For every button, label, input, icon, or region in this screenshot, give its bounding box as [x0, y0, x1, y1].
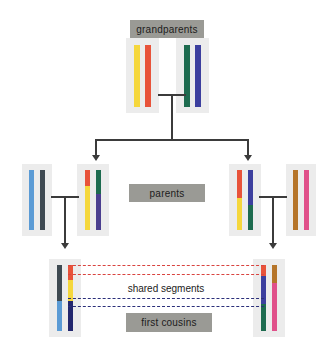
first-cousins-label-chip: first cousins: [126, 313, 212, 332]
parent-spouse-right-box: [286, 164, 316, 236]
segment: [272, 283, 277, 331]
chromosome: [40, 170, 45, 230]
parent-child-left-box: [77, 164, 109, 236]
chromosome: [96, 170, 101, 230]
parent-child-right-chromosomes: [229, 164, 261, 236]
shared-segment-link-red-bottom: [68, 274, 264, 275]
segment: [293, 170, 298, 230]
parent-spouse-right-chromosomes: [286, 164, 316, 236]
grandparent-1-box: [126, 38, 159, 113]
segment: [272, 265, 277, 283]
arrow-to-parent-child-left: [92, 155, 100, 161]
chromosome: [134, 45, 140, 107]
chromosome: [184, 45, 190, 107]
segment: [237, 198, 242, 230]
arrow-to-parent-child-right: [244, 155, 252, 161]
segment: [261, 276, 266, 304]
segment: [85, 170, 90, 186]
chromosome: [304, 170, 309, 230]
chromosome: [57, 265, 62, 331]
segment: [29, 170, 34, 230]
sibling-bus-line: [95, 139, 249, 141]
shared-segment-link-blue-bottom: [68, 306, 264, 307]
parent-child-left-chromosomes: [77, 164, 109, 236]
chromosome: [85, 170, 90, 230]
chromosome: [272, 265, 277, 331]
parent-child-right-box: [229, 164, 261, 236]
grandparents-label-text: grandparents: [136, 24, 197, 35]
chromosome: [248, 170, 253, 230]
segment: [68, 265, 73, 280]
shared-segments-label-text: shared segments: [128, 283, 205, 294]
sibling-branch-right: [247, 139, 249, 156]
shared-segment-link-blue-top: [68, 298, 264, 299]
parents-label-chip: parents: [129, 184, 205, 202]
segment: [248, 205, 253, 230]
chromosome: [145, 45, 151, 107]
arrow-to-cousin-right: [269, 243, 277, 249]
sibling-branch-left: [95, 139, 97, 156]
parent-drop-line-left: [64, 196, 66, 244]
first-cousins-label-text: first cousins: [141, 317, 196, 328]
segment: [304, 170, 309, 230]
parent-spouse-left-box: [22, 164, 52, 236]
segment: [195, 45, 201, 107]
chromosome: [237, 170, 242, 230]
segment: [96, 170, 101, 194]
grandparent-drop-line: [171, 94, 173, 140]
segment: [261, 304, 266, 331]
parents-label-text: parents: [150, 188, 185, 199]
pedigree-diagram: grandparents pare: [0, 0, 332, 354]
segment: [57, 301, 62, 331]
segment: [134, 45, 140, 107]
grandparents-label-chip: grandparents: [130, 20, 204, 38]
segment: [237, 170, 242, 198]
grandparent-2-box: [176, 38, 209, 113]
arrow-to-cousin-left: [61, 243, 69, 249]
shared-segment-link-red-top: [68, 265, 264, 266]
chromosome: [293, 170, 298, 230]
segment: [145, 45, 151, 107]
segment: [96, 194, 101, 230]
parent-drop-line-right: [272, 196, 274, 244]
segment: [85, 186, 90, 230]
parent-spouse-left-chromosomes: [22, 164, 52, 236]
shared-segments-label: shared segments: [84, 280, 248, 296]
segment: [40, 170, 45, 230]
segment: [184, 45, 190, 107]
chromosome: [29, 170, 34, 230]
grandparent-2-chromosomes: [176, 38, 209, 113]
segment: [57, 265, 62, 301]
grandparent-1-chromosomes: [126, 38, 159, 113]
chromosome: [195, 45, 201, 107]
segment: [248, 170, 253, 205]
